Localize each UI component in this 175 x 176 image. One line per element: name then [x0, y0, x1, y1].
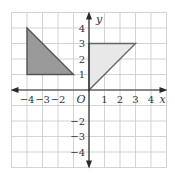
origin-label: O — [76, 93, 85, 106]
y-tick-label: 4 — [79, 23, 85, 34]
x-tick-label: 4 — [148, 94, 154, 105]
y-tick-label: −3 — [70, 131, 85, 142]
y-tick-label: 1 — [79, 69, 85, 80]
coordinate-plane: −4−3−212344321−2−3−4Oxy — [0, 0, 175, 176]
y-tick-label: 2 — [79, 54, 85, 65]
x-tick-label: −2 — [51, 94, 66, 105]
x-tick-label: −3 — [35, 94, 50, 105]
x-tick-label: 3 — [132, 94, 138, 105]
x-tick-label: 1 — [101, 94, 107, 105]
light-triangle — [89, 44, 136, 91]
x-tick-label: 2 — [117, 94, 123, 105]
dark-triangle — [27, 28, 74, 75]
y-tick-label: −2 — [70, 116, 85, 127]
x-axis-label: x — [159, 93, 166, 106]
y-tick-label: 3 — [79, 38, 85, 49]
y-tick-label: −4 — [70, 147, 85, 158]
x-tick-label: −4 — [20, 94, 35, 105]
y-axis-label: y — [95, 13, 103, 26]
